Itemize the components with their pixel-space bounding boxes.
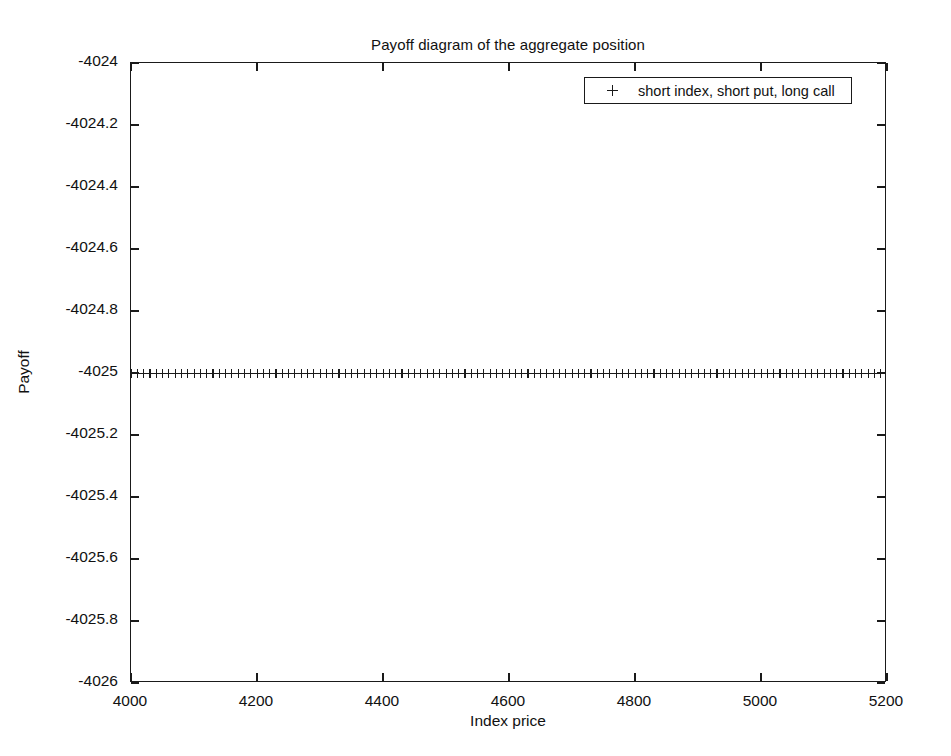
x-axis-title: Index price xyxy=(130,712,886,730)
y-tick-label: -4025.8 xyxy=(0,610,118,628)
y-axis-tick xyxy=(131,682,139,683)
y-tick-label: -4025 xyxy=(0,362,118,380)
x-tick-label: 5200 xyxy=(826,692,946,710)
y-axis-tick xyxy=(877,682,885,683)
data-point-marker xyxy=(883,369,886,378)
x-tick-label: 4800 xyxy=(574,692,694,710)
x-tick-label: 5000 xyxy=(700,692,820,710)
y-tick-label: -4024 xyxy=(0,52,118,70)
x-tick-label: 4200 xyxy=(196,692,316,710)
x-tick-label: 4000 xyxy=(70,692,190,710)
y-tick-label: -4026 xyxy=(0,672,118,690)
plot-area xyxy=(130,62,886,682)
data-series-short-index-short-put-long-call xyxy=(131,63,885,681)
x-axis-tick xyxy=(886,673,887,681)
y-tick-label: -4024.2 xyxy=(0,114,118,132)
y-tick-label: -4024.8 xyxy=(0,300,118,318)
y-tick-label: -4024.4 xyxy=(0,176,118,194)
figure-canvas: Payoff diagram of the aggregate position… xyxy=(0,0,951,756)
y-tick-label: -4025.4 xyxy=(0,486,118,504)
y-tick-label: -4024.6 xyxy=(0,238,118,256)
y-tick-label: -4025.2 xyxy=(0,424,118,442)
legend-entry-label: short index, short put, long call xyxy=(638,83,835,99)
x-tick-label: 4400 xyxy=(322,692,442,710)
chart-title: Payoff diagram of the aggregate position xyxy=(130,36,886,53)
y-tick-label: -4025.6 xyxy=(0,548,118,566)
x-axis-tick xyxy=(886,63,887,71)
legend-box[interactable]: short index, short put, long call xyxy=(584,77,852,104)
legend-plus-marker-icon xyxy=(607,85,618,96)
x-tick-label: 4600 xyxy=(448,692,568,710)
